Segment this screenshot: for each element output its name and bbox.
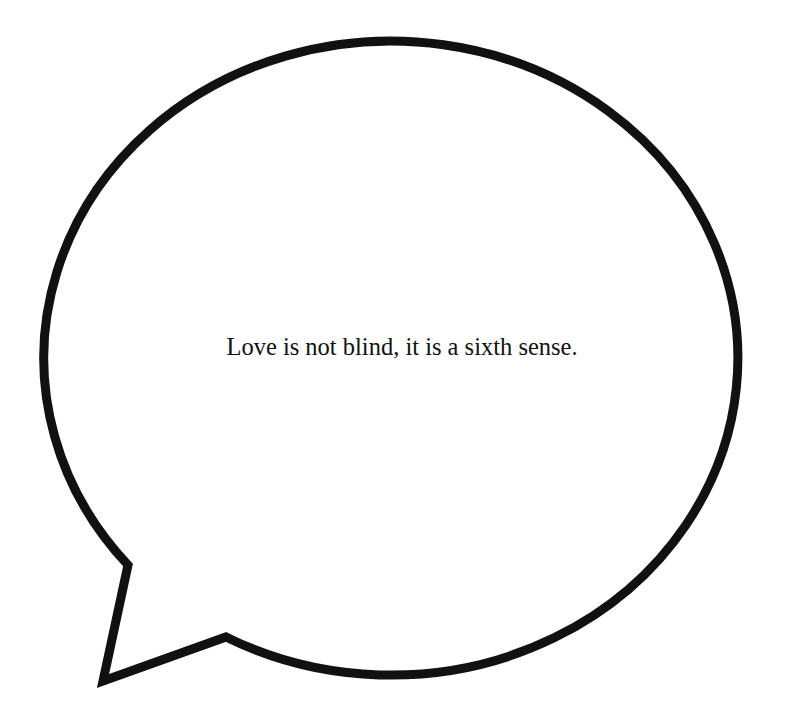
speech-bubble-quote: Love is not blind, it is a sixth sense. xyxy=(0,331,802,363)
speech-bubble-canvas: Love is not blind, it is a sixth sense. xyxy=(0,0,802,727)
speech-bubble-icon xyxy=(0,0,802,727)
